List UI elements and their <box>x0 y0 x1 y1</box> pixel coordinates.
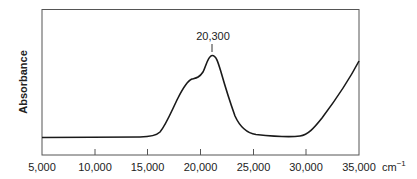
x-unit-label: cm−1 <box>382 159 406 173</box>
spectrum-curve <box>42 55 359 137</box>
x-tick-label: 35,000 <box>342 161 376 173</box>
x-tick-label: 20,000 <box>184 161 218 173</box>
y-axis-label: Absorbance <box>17 50 29 114</box>
x-tick-label: 25,000 <box>237 161 271 173</box>
peak-annotation: 20,300 <box>196 30 230 42</box>
x-axis-ticks <box>95 149 306 155</box>
x-axis-tick-labels: 5,000 10,000 15,000 20,000 25,000 30,000… <box>28 159 406 173</box>
x-tick-label: 30,000 <box>289 161 323 173</box>
x-tick-label: 5,000 <box>28 161 56 173</box>
x-tick-label: 10,000 <box>78 161 112 173</box>
x-tick-label: 15,000 <box>131 161 165 173</box>
absorbance-chart: Absorbance 5,000 10,000 15,000 20,000 25… <box>0 0 417 179</box>
